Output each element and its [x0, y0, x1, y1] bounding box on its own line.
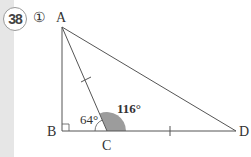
angle-label-acd: 116° [117, 101, 141, 116]
right-angle-mark [62, 124, 69, 131]
point-label-c: C [102, 138, 111, 153]
point-label-a: A [56, 10, 67, 25]
triangle-figure: A B C D 64° 116° [0, 0, 251, 157]
angle-label-acb: 64° [80, 112, 98, 127]
point-label-d: D [239, 124, 249, 139]
point-label-b: B [47, 124, 56, 139]
